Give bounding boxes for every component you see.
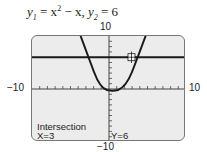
calculator-screen: Intersection X=3 Y=6 — [31, 35, 185, 141]
xmin-label: −10 — [7, 82, 24, 93]
y2-rhs: = 6 — [98, 4, 118, 19]
y1-rhs: = x — [37, 4, 57, 19]
equation-label: y1 = x2 − x, y2 = 6 — [27, 4, 118, 22]
xmax-label: 10 — [189, 82, 200, 93]
parabola-y1 — [81, 36, 146, 91]
y-readout: Y=6 — [111, 131, 128, 141]
ymax-label: 10 — [100, 21, 111, 32]
x-readout: X=3 — [37, 131, 54, 141]
ymin-label: −10 — [97, 141, 114, 152]
y1-rhs-tail: − x, — [61, 4, 88, 19]
